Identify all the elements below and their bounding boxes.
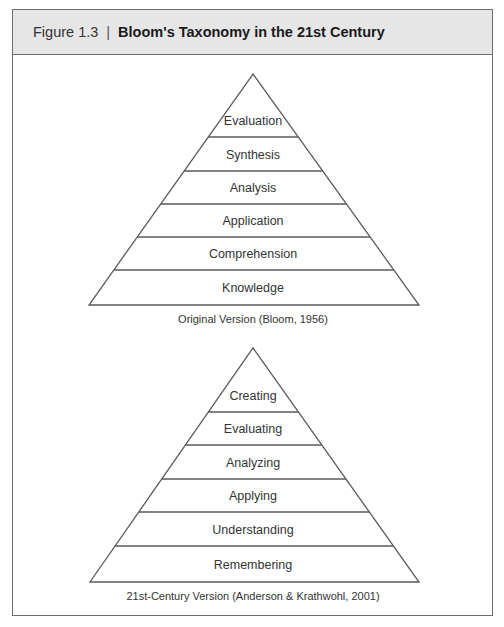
level-label: Knowledge [222,281,284,295]
level-label: Applying [229,489,277,503]
level-label: Analysis [230,181,277,195]
level-label: Evaluation [224,114,282,128]
level-label: Comprehension [209,247,297,261]
level-label: Remembering [214,558,293,572]
level-label: Creating [229,389,276,403]
pyramid-original: EvaluationSynthesisAnalysisApplicationCo… [89,74,419,325]
level-label: Synthesis [226,148,280,162]
pyramid-caption: Original Version (Bloom, 1956) [178,313,328,325]
level-label: Analyzing [226,456,280,470]
level-label: Evaluating [224,422,282,436]
pyramid-caption: 21st-Century Version (Anderson & Krathwo… [126,590,379,602]
level-label: Understanding [212,523,293,537]
level-label: Application [222,214,283,228]
pyramid-revised: CreatingEvaluatingAnalyzingApplyingUnder… [90,348,419,602]
pyramid-diagram: EvaluationSynthesisAnalysisApplicationCo… [0,0,504,627]
